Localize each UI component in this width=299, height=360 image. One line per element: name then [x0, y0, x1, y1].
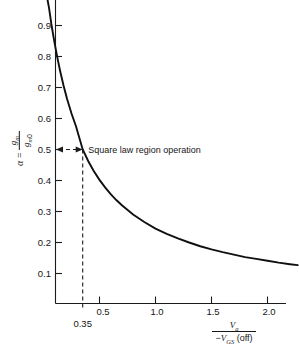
y-axis-fraction-numerator: gm: [7, 133, 18, 148]
y-tick-label-0.1: 0.1: [38, 268, 51, 279]
gm-base: g: [7, 141, 17, 146]
x-axis-fraction-numerator: Vg: [227, 320, 242, 331]
y-tick-label-0.3: 0.3: [38, 206, 51, 217]
x-axis-fraction: Vg −VGS (off): [212, 320, 255, 343]
x-tick-label-1.0: 1.0: [150, 306, 163, 317]
y-axis-title-inner: α = gm gm0: [7, 132, 30, 167]
x-tick-label-2.0: 2.0: [262, 306, 275, 317]
x-tick-label-0.5: 0.5: [96, 306, 109, 317]
vgs-suffix: (off): [234, 333, 252, 343]
y-tick-label-0.5: 0.5: [38, 144, 51, 155]
y-tick-label-0.4: 0.4: [38, 175, 51, 186]
x-axis-fraction-denominator: −VGS (off): [212, 331, 255, 343]
y-tick-label-0.9: 0.9: [38, 20, 51, 31]
gm0-base: g: [21, 143, 31, 148]
gm0-sub2: 0: [25, 135, 32, 139]
marker-label-035: 0.35: [73, 318, 92, 329]
figure-container: 0.9 0.8 0.7 0.6 0.5 0.4 0.3 0.2 0.1 0.5 …: [0, 0, 299, 360]
chart-canvas: 0.9 0.8 0.7 0.6 0.5 0.4 0.3 0.2 0.1 0.5 …: [0, 0, 299, 360]
gm0-sub: m: [25, 138, 32, 143]
y-axis-fraction-denominator: gm0: [19, 132, 31, 151]
x-axis-title: Vg −VGS (off): [186, 320, 282, 343]
y-axis-alpha-symbol: α: [14, 161, 25, 166]
y-axis-fraction: gm gm0: [7, 132, 30, 151]
square-law-annotation-text: Square law region operation: [88, 145, 201, 155]
y-tick-label-0.8: 0.8: [38, 51, 51, 62]
y-axis-tick-labels: 0.9 0.8 0.7 0.6 0.5 0.4 0.3 0.2 0.1: [38, 20, 51, 279]
y-axis-title: α = gm gm0: [4, 104, 34, 194]
y-tick-label-0.7: 0.7: [38, 82, 51, 93]
y-axis-equals-symbol: =: [14, 152, 25, 159]
x-tick-label-1.5: 1.5: [206, 306, 219, 317]
y-tick-label-0.6: 0.6: [38, 113, 51, 124]
vgs-sub: GS: [226, 338, 234, 345]
y-tick-label-0.2: 0.2: [38, 237, 51, 248]
